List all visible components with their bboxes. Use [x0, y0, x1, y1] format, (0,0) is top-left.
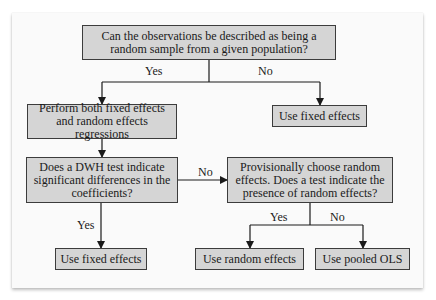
use-pooled-ols-text: Use pooled OLS	[323, 253, 403, 266]
use-pooled-ols-box: Use pooled OLS	[315, 248, 410, 270]
use-random-effects-text: Use random effects	[203, 253, 296, 266]
edge-label-random-sample-yes: Yes	[145, 65, 162, 78]
perform-both-regressions-text: Perform both fixed effects and random ef…	[32, 102, 172, 141]
edge-label-dwh-no: No	[198, 166, 213, 179]
question-random-sample-text: Can the observations be described as bei…	[87, 30, 331, 56]
use-fixed-effects-bottom-box: Use fixed effects	[55, 248, 147, 270]
question-random-sample-box: Can the observations be described as bei…	[82, 25, 336, 60]
use-fixed-effects-top-text: Use fixed effects	[279, 110, 360, 123]
use-fixed-effects-bottom-text: Use fixed effects	[60, 253, 141, 266]
perform-both-regressions-box: Perform both fixed effects and random ef…	[27, 104, 177, 139]
question-dwh-test-box: Does a DWH test indicate significant dif…	[26, 157, 178, 203]
question-provisional-random-effects-box: Provisionally choose random effects. Doe…	[227, 157, 393, 203]
use-random-effects-box: Use random effects	[195, 248, 304, 270]
question-dwh-test-text: Does a DWH test indicate significant dif…	[31, 161, 173, 200]
edge-label-random-sample-no: No	[258, 65, 273, 78]
edge-label-provisional-yes: Yes	[270, 211, 287, 224]
edge-label-dwh-yes: Yes	[77, 219, 94, 232]
edge-label-provisional-no: No	[330, 211, 345, 224]
use-fixed-effects-top-box: Use fixed effects	[272, 105, 367, 127]
question-provisional-random-effects-text: Provisionally choose random effects. Doe…	[232, 161, 388, 200]
